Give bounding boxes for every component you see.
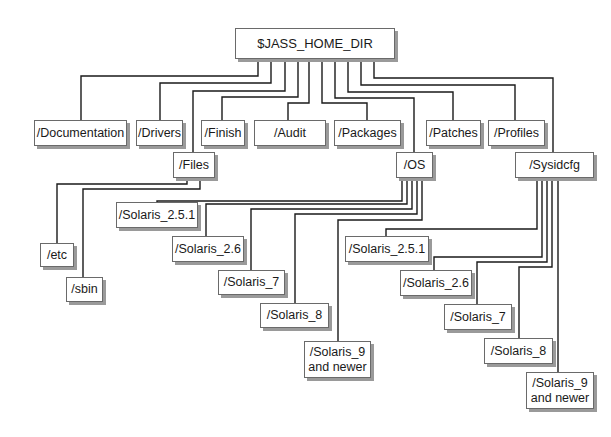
connector-os-os_s251: [157, 178, 402, 202]
node-audit: /Audit: [254, 120, 326, 146]
connector-root-patches: [348, 59, 453, 120]
node-root: $JASS_HOME_DIR: [235, 28, 395, 59]
node-sy-s9: /Solaris_9 and newer: [526, 372, 594, 409]
connector-sysidcfg-sy_s26: [434, 178, 542, 270]
node-sy-s7: /Solaris_7: [444, 304, 512, 330]
node-os-s26: /Solaris_2.6: [172, 236, 244, 262]
connector-root-finish: [222, 59, 298, 120]
node-sbin: /sbin: [66, 277, 103, 302]
node-os-s7: /Solaris_7: [218, 270, 285, 295]
node-files: /Files: [173, 152, 215, 178]
node-os-s8: /Solaris_8: [260, 303, 329, 328]
node-packages: /Packages: [334, 120, 401, 146]
node-os: /OS: [396, 152, 433, 178]
connector-os-os_s26: [206, 178, 407, 236]
node-etc: /etc: [40, 243, 74, 267]
node-sy-s8: /Solaris_8: [484, 338, 553, 364]
node-patches: /Patches: [426, 120, 481, 146]
connector-root-documentation: [81, 59, 258, 120]
node-sysidcfg: /Sysidcfg: [515, 152, 594, 178]
connector-root-drivers: [160, 59, 271, 120]
node-sy-s251: /Solaris_2.5.1: [345, 236, 429, 262]
node-documentation: /Documentation: [34, 120, 127, 146]
connector-root-packages: [322, 59, 367, 120]
node-os-s9: /Solaris_9 and newer: [304, 341, 371, 378]
node-profiles: /Profiles: [488, 120, 545, 146]
node-os-s251: /Solaris_2.5.1: [116, 202, 198, 228]
node-finish: /Finish: [201, 120, 245, 146]
connector-root-profiles: [361, 59, 515, 120]
directory-tree-diagram: $JASS_HOME_DIR/Documentation/Drivers/Fin…: [0, 0, 611, 437]
connector-sysidcfg-sy_s251: [386, 178, 537, 236]
node-drivers: /Drivers: [136, 120, 183, 146]
node-sy-s26: /Solaris_2.6: [400, 270, 472, 296]
